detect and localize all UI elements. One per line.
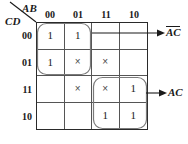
- kmap-cell: [120, 23, 148, 50]
- column-header-row: 00 01 11 10: [36, 8, 148, 22]
- cell-value: ×: [102, 84, 108, 94]
- column-header: 01: [64, 8, 92, 22]
- column-header: 11: [92, 8, 120, 22]
- row-header: 10: [8, 103, 34, 130]
- term-literal-a-bar: A: [166, 27, 173, 38]
- kmap-cell: 1: [37, 23, 65, 50]
- axis-label-ab: AB: [22, 3, 37, 14]
- kmap-cell: [120, 50, 148, 77]
- arrowhead-icon: [159, 90, 167, 97]
- row-header-column: 00 01 11 10: [8, 22, 34, 130]
- cell-value: 1: [48, 30, 54, 41]
- kmap-cell: [37, 103, 65, 130]
- group-term-label-not-a-not-c: AC: [166, 27, 181, 38]
- kmap-cell: 1: [120, 103, 148, 130]
- kmap-cell: ×: [92, 76, 120, 103]
- row-header: 01: [8, 49, 34, 76]
- cell-value: 1: [75, 30, 81, 41]
- kmap-cell: [37, 76, 65, 103]
- kmap-cell: 1: [120, 76, 148, 103]
- cell-value: 1: [48, 57, 54, 68]
- kmap-grid: 1 1 1 × × × × 1 1 1: [36, 22, 148, 130]
- term-literal-c-bar: C: [173, 27, 180, 38]
- cell-value: 1: [131, 83, 137, 94]
- cell-value: ×: [102, 57, 108, 67]
- cell-value: 1: [131, 110, 137, 121]
- row-header: 11: [8, 76, 34, 103]
- group-term-label-ac: AC: [168, 87, 183, 98]
- row-header: 00: [8, 22, 34, 49]
- cell-value: ×: [75, 57, 81, 67]
- kmap-cell: ×: [65, 76, 93, 103]
- kmap-cell: 1: [37, 50, 65, 77]
- cell-value: 1: [103, 110, 109, 121]
- cell-value: ×: [75, 84, 81, 94]
- column-header: 10: [120, 8, 148, 22]
- kmap-cell: 1: [92, 103, 120, 130]
- column-header: 00: [36, 8, 64, 22]
- kmap-cell: [65, 103, 93, 130]
- arrowhead-icon: [157, 30, 165, 37]
- kmap-cell: 1: [65, 23, 93, 50]
- kmap-cell: [92, 23, 120, 50]
- kmap-cell: ×: [92, 50, 120, 77]
- karnaugh-map-figure: AB CD 00 01 11 10 00 01 11 10 1 1 1 × × …: [0, 0, 188, 144]
- kmap-cell: ×: [65, 50, 93, 77]
